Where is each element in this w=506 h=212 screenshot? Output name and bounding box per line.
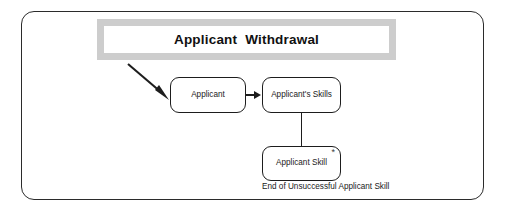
node-applicant[interactable]: Applicant [170, 77, 246, 113]
node-applicant-label: Applicant [191, 91, 225, 99]
diagram-caption: End of Unsuccessful Applicant Skill [262, 183, 389, 191]
node-applicants-skills-label: Applicant's Skills [271, 91, 332, 99]
node-applicant-skill[interactable]: * Applicant Skill [262, 146, 341, 181]
right-arrow-icon [254, 91, 261, 99]
entry-arrow-icon [126, 62, 176, 104]
node-applicant-skill-label: Applicant Skill [276, 159, 327, 167]
diagram-title-band-inner: Applicant Withdrawal [104, 26, 389, 53]
node-applicants-skills[interactable]: Applicant's Skills [262, 77, 341, 113]
diagram-title-band: Applicant Withdrawal [97, 19, 396, 60]
diagram-title: Applicant Withdrawal [174, 33, 319, 47]
multiplicity-asterisk-icon: * [331, 148, 335, 157]
vertical-connector-icon [301, 113, 302, 146]
diagram-canvas: Applicant Withdrawal Applicant Applicant… [0, 0, 506, 212]
